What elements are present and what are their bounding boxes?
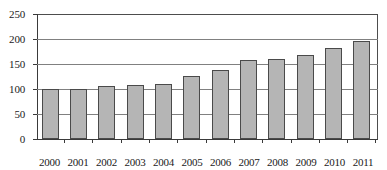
- y-axis-label-100: 100: [9, 84, 25, 95]
- x-tick-mark-9: [319, 139, 320, 143]
- y-axis-label-150: 150: [9, 59, 25, 70]
- bar-2003: [127, 85, 144, 140]
- y-tick-mark-250: [33, 14, 37, 15]
- y-tick-mark-0: [33, 139, 37, 140]
- bar-2001: [70, 89, 87, 140]
- bar-2008: [268, 59, 285, 139]
- x-axis-line: [37, 139, 378, 140]
- chart-screenshot: 250 200 150 100 50 0 2000 2001 2002 2003…: [0, 0, 387, 170]
- x-tick-mark-1: [92, 139, 93, 143]
- bar-2011: [353, 41, 370, 139]
- bar-2002: [98, 86, 115, 139]
- y-tick-mark-100: [33, 89, 37, 90]
- y-tick-mark-50: [33, 114, 37, 115]
- y-tick-mark-200: [33, 39, 37, 40]
- plot-frame-top-border: [37, 14, 378, 15]
- x-tick-mark-5: [206, 139, 207, 143]
- figure-caption: [60, 160, 360, 169]
- x-tick-mark-2: [121, 139, 122, 143]
- y-axis-label-0: 0: [20, 134, 25, 145]
- x-tick-mark-0: [64, 139, 65, 143]
- bar-chart-plot-area: 250 200 150 100 50 0 2000 2001 2002 2003…: [37, 14, 378, 139]
- y-axis-line: [37, 14, 38, 140]
- plot-frame-right-border: [377, 14, 378, 139]
- x-tick-mark-11: [375, 139, 376, 143]
- bar-2004: [155, 84, 172, 139]
- bar-2000: [42, 89, 59, 139]
- x-tick-mark-10: [347, 139, 348, 143]
- x-tick-mark-8: [291, 139, 292, 143]
- bar-2005: [183, 76, 200, 139]
- y-axis-label-250: 250: [9, 9, 25, 20]
- bar-2009: [297, 55, 314, 139]
- gridline-200: [37, 39, 378, 40]
- y-axis-label-200: 200: [9, 34, 25, 45]
- x-tick-mark-4: [177, 139, 178, 143]
- x-tick-mark-6: [234, 139, 235, 143]
- bar-2010: [325, 48, 342, 140]
- bar-2006: [212, 70, 229, 140]
- x-tick-mark-7: [262, 139, 263, 143]
- bar-2007: [240, 60, 257, 140]
- y-axis-label-50: 50: [14, 109, 25, 120]
- x-tick-mark-3: [149, 139, 150, 143]
- y-tick-mark-150: [33, 64, 37, 65]
